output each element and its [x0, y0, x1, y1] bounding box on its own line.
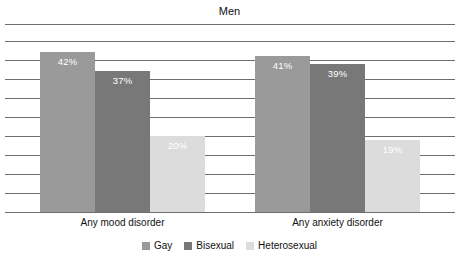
bar-bisexual-1: 39%: [310, 64, 365, 212]
bar-value-label: 42%: [40, 56, 95, 67]
category-label-1: Any anxiety disorder: [258, 216, 418, 230]
category-axis-labels: Any mood disorderAny anxiety disorder: [0, 216, 459, 232]
category-label-0: Any mood disorder: [43, 216, 203, 230]
x-axis-line: [5, 212, 455, 213]
bar-heterosexual-0: 20%: [150, 136, 205, 212]
bar-heterosexual-1: 19%: [365, 140, 420, 212]
legend-label: Gay: [154, 240, 172, 252]
chart-legend: GayBisexualHeterosexual: [0, 240, 459, 252]
legend-item-heterosexual[interactable]: Heterosexual: [246, 240, 317, 252]
chart-title: Men: [0, 5, 459, 18]
bar-value-label: 41%: [255, 60, 310, 71]
title-divider: [5, 24, 455, 25]
bar-bisexual-0: 37%: [95, 71, 150, 212]
legend-swatch-icon: [246, 242, 254, 250]
legend-item-gay[interactable]: Gay: [142, 240, 172, 252]
legend-label: Heterosexual: [258, 240, 317, 252]
plot-area: 42%37%20%41%39%19%: [5, 41, 455, 212]
legend-swatch-icon: [142, 242, 150, 250]
legend-label: Bisexual: [196, 240, 234, 252]
chart-container: Men 42%37%20%41%39%19% Any mood disorder…: [0, 0, 459, 264]
bar-value-label: 19%: [365, 144, 420, 155]
legend-item-bisexual[interactable]: Bisexual: [184, 240, 234, 252]
bar-value-label: 20%: [150, 140, 205, 151]
bar-gay-0: 42%: [40, 52, 95, 212]
bar-gay-1: 41%: [255, 56, 310, 212]
bar-value-label: 37%: [95, 75, 150, 86]
bars-layer: 42%37%20%41%39%19%: [5, 41, 455, 212]
legend-swatch-icon: [184, 242, 192, 250]
bar-value-label: 39%: [310, 68, 365, 79]
